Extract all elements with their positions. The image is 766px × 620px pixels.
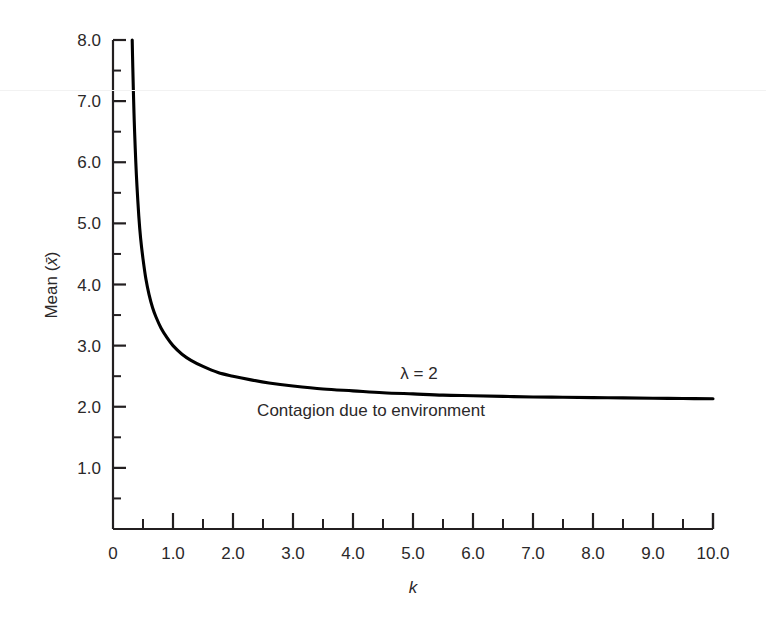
y-axis-title: Mean (x̄) (42, 251, 61, 318)
y-tick-label: 4.0 (77, 276, 101, 295)
x-tick-label: 1.0 (161, 544, 185, 563)
y-axis-title-variable: x̄ (42, 257, 61, 267)
x-axis-title: k (409, 578, 419, 597)
y-axis-title-prefix: Mean ( (42, 265, 61, 318)
y-tick-label: 3.0 (77, 337, 101, 356)
y-tick-label: 8.0 (77, 31, 101, 50)
x-tick-label: 9.0 (641, 544, 665, 563)
axes-group (113, 40, 713, 529)
y-tick-label: 7.0 (77, 92, 101, 111)
lambda-annotation: λ = 2 (400, 364, 437, 383)
y-tick-label: 1.0 (77, 459, 101, 478)
y-tick-label: 5.0 (77, 214, 101, 233)
y-tick-label: 2.0 (77, 398, 101, 417)
scan-artifact-line (0, 90, 766, 91)
y-tick-label: 6.0 (77, 153, 101, 172)
x-tick-label: 8.0 (581, 544, 605, 563)
x-tick-label: 4.0 (341, 544, 365, 563)
svg-text:Mean (x̄): Mean (x̄) (42, 251, 61, 318)
x-tick-label: 5.0 (401, 544, 425, 563)
x-tick-label: 3.0 (281, 544, 305, 563)
figure-container: 1.02.03.04.05.06.07.08.0 01.02.03.04.05.… (0, 0, 766, 620)
x-tick-label-group: 01.02.03.04.05.06.07.08.09.010.0 (108, 544, 729, 563)
x-tick-label: 0 (108, 544, 117, 563)
y-tick-group (113, 40, 126, 498)
x-tick-label: 7.0 (521, 544, 545, 563)
y-tick-label-group: 1.02.03.04.05.06.07.08.0 (77, 31, 101, 478)
x-tick-label: 6.0 (461, 544, 485, 563)
data-curve-mean-vs-k (132, 40, 713, 399)
x-tick-group (143, 513, 713, 529)
y-axis-title-suffix: ) (42, 251, 61, 257)
contagion-annotation: Contagion due to environment (257, 401, 485, 420)
x-tick-label: 2.0 (221, 544, 245, 563)
x-tick-label: 10.0 (696, 544, 729, 563)
chart-canvas: 1.02.03.04.05.06.07.08.0 01.02.03.04.05.… (0, 0, 766, 620)
